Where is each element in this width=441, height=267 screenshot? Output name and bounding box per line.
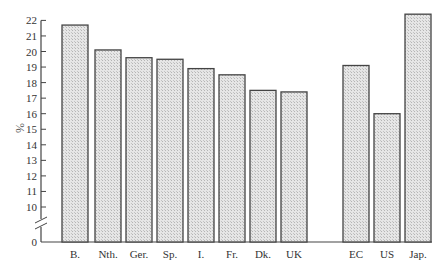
y-tick-label: 0 bbox=[32, 236, 38, 248]
y-tick-label: 12 bbox=[26, 170, 37, 182]
x-tick-label: Nth. bbox=[98, 248, 118, 260]
y-tick-label: 14 bbox=[26, 139, 38, 151]
bar-uk bbox=[281, 92, 307, 242]
bar-us bbox=[374, 114, 400, 242]
y-tick-label: 10 bbox=[26, 201, 38, 213]
x-tick-label: B. bbox=[70, 248, 80, 260]
bar-i bbox=[188, 69, 214, 242]
y-tick-label: 17 bbox=[26, 92, 38, 104]
bar-ec bbox=[343, 65, 369, 242]
bar-chart: 010111213141516171819202122 B.Nth.Ger.Sp… bbox=[0, 0, 441, 267]
bar-sp bbox=[157, 59, 183, 242]
x-axis-labels: B.Nth.Ger.Sp.I.Fr.Dk.UKECUSJap. bbox=[70, 248, 427, 260]
x-tick-label: I. bbox=[198, 248, 205, 260]
bar-dk bbox=[250, 90, 276, 242]
x-tick-label: Jap. bbox=[409, 248, 427, 260]
bar-b bbox=[62, 25, 88, 242]
y-tick-label: 18 bbox=[26, 77, 38, 89]
bar-jap bbox=[405, 14, 431, 242]
y-tick-label: 22 bbox=[26, 14, 37, 26]
x-tick-label: UK bbox=[286, 248, 302, 260]
y-axis-label: % bbox=[13, 123, 27, 133]
y-tick-label: 19 bbox=[26, 61, 38, 73]
y-tick-label: 13 bbox=[26, 154, 38, 166]
x-tick-label: Ger. bbox=[130, 248, 149, 260]
bar-fr bbox=[219, 75, 245, 242]
x-tick-label: Fr. bbox=[226, 248, 238, 260]
y-tick-label: 11 bbox=[26, 185, 37, 197]
x-tick-label: US bbox=[380, 248, 394, 260]
bars bbox=[62, 14, 431, 242]
bar-nth bbox=[95, 50, 121, 242]
y-tick-label: 20 bbox=[26, 46, 38, 58]
bar-ger bbox=[126, 58, 152, 242]
x-tick-label: EC bbox=[349, 248, 363, 260]
x-tick-label: Dk. bbox=[255, 248, 271, 260]
y-tick-label: 21 bbox=[26, 30, 37, 42]
y-tick-label: 16 bbox=[26, 108, 38, 120]
x-tick-label: Sp. bbox=[163, 248, 178, 260]
